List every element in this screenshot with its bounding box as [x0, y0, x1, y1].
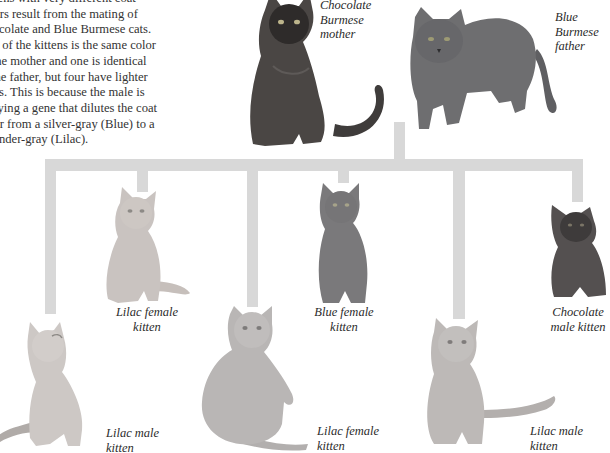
stem-lilac-male-2 [453, 159, 465, 319]
intro-line: colors result from the mating of [0, 7, 248, 23]
stem-lilac-male-1 [45, 159, 56, 314]
lilac-male-label-2: Lilac male kitten [530, 424, 583, 453]
stem-chocolate-male [572, 159, 583, 202]
blue-burmese-father-photo [407, 5, 567, 133]
lilac-male-kitten-photo-1 [0, 322, 98, 450]
intro-line: color from a silver-gray (Blue) to a [0, 117, 248, 133]
chocolate-male-label: Chocolate male kitten [538, 305, 610, 334]
intro-line: coats. This is because the male is [0, 85, 248, 101]
intro-line: One of the kittens is the same color [0, 38, 248, 54]
intro-line: to the father, but four have lighter [0, 70, 248, 86]
intro-line: carrying a gene that dilutes the coat [0, 101, 248, 117]
father-label: Blue Burmese father [555, 10, 599, 54]
mother-label: Chocolate Burmese mother [320, 0, 371, 42]
lilac-female-kitten-photo-1 [102, 187, 197, 305]
intro-line: Chocolate and Blue Burmese cats. [0, 22, 248, 38]
sibling-bar [45, 159, 583, 171]
parent-stem [394, 122, 405, 162]
stem-lilac-female-2 [247, 159, 258, 307]
intro-line: as the mother and one is identical [0, 54, 248, 70]
stem-blue-female [338, 159, 349, 183]
lilac-female-label-1: Lilac female kitten [102, 305, 192, 334]
blue-female-label: Blue female kitten [300, 305, 388, 334]
intro-line: lavender-gray (Lilac). [0, 132, 248, 148]
intro-line: Kittens with very different coat [0, 0, 248, 7]
lilac-female-kitten-photo-2 [200, 306, 310, 452]
intro-paragraph: Kittens with very different coat colors … [0, 0, 248, 148]
lilac-female-label-2: Lilac female kitten [317, 424, 379, 453]
blue-female-kitten-photo [315, 183, 377, 305]
lilac-male-label-1: Lilac male kitten [106, 426, 159, 453]
chocolate-male-kitten-photo [548, 203, 608, 299]
